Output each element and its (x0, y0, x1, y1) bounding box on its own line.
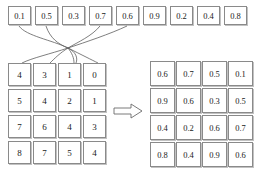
value-matrix-cell: 0.8 (150, 142, 175, 167)
value-matrix-cell: 0.6 (228, 142, 253, 167)
matrix-gather-diagram: 0.1 0.5 0.3 0.7 0.6 0.9 0.2 0.4 0.8 4 3 … (0, 0, 258, 173)
index-matrix-cell: 6 (33, 115, 56, 138)
top-row-cell: 0.6 (116, 6, 139, 25)
index-matrix-cell: 2 (58, 89, 81, 112)
index-matrix-cell: 1 (58, 63, 81, 86)
index-matrix-cell: 7 (8, 115, 31, 138)
connector-line (19, 26, 98, 63)
top-row-cell: 0.9 (143, 6, 166, 25)
connector-line (50, 26, 100, 63)
value-matrix-cell: 0.7 (228, 115, 253, 140)
top-row-cell: 0.2 (170, 6, 193, 25)
connector-line (46, 26, 77, 63)
value-matrix-cell: 0.2 (176, 115, 201, 140)
top-row-cell: 0.7 (89, 6, 112, 25)
index-matrix-cell: 1 (83, 89, 106, 112)
value-matrix-cell: 0.1 (228, 61, 253, 86)
index-matrix-cell: 8 (8, 141, 31, 164)
value-matrix-cell: 0.7 (176, 61, 201, 86)
value-matrix-cell: 0.6 (176, 88, 201, 113)
index-matrix-cell: 0 (83, 63, 106, 86)
value-matrix-cell: 0.4 (176, 142, 201, 167)
index-matrix-cell: 4 (83, 141, 106, 164)
index-matrix-cell: 4 (58, 115, 81, 138)
value-matrix-cell: 0.5 (202, 61, 227, 86)
connector-line (22, 26, 127, 63)
value-matrix-cell: 0.9 (150, 88, 175, 113)
value-matrix-cell: 0.3 (202, 88, 227, 113)
value-matrix-cell: 0.4 (150, 115, 175, 140)
index-matrix-cell: 4 (33, 89, 56, 112)
value-matrix-cell: 0.6 (202, 115, 227, 140)
index-matrix-cell: 7 (33, 141, 56, 164)
index-matrix-cell: 3 (83, 115, 106, 138)
value-matrix-cell: 0.6 (150, 61, 175, 86)
top-row-cell: 0.5 (35, 6, 58, 25)
top-row-cell: 0.1 (8, 6, 31, 25)
top-row-cell: 0.8 (224, 6, 247, 25)
top-row-cell: 0.3 (62, 6, 85, 25)
connector-line (68, 48, 74, 63)
value-matrix-cell: 0.9 (202, 142, 227, 167)
index-matrix-cell: 4 (8, 63, 31, 86)
index-matrix-cell: 3 (33, 63, 56, 86)
value-matrix-cell: 0.5 (228, 88, 253, 113)
index-matrix-cell: 5 (58, 141, 81, 164)
top-row-cell: 0.4 (197, 6, 220, 25)
index-matrix-cell: 5 (8, 89, 31, 112)
